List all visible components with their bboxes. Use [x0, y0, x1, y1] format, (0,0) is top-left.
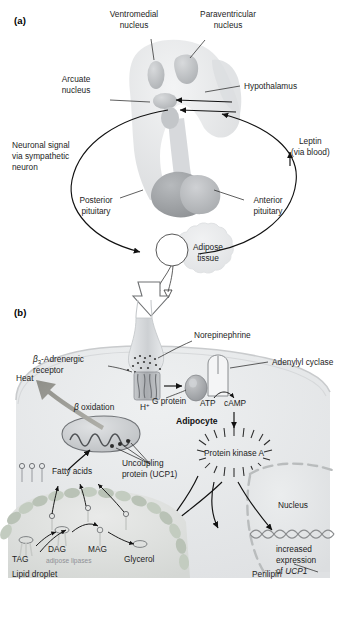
label-adipose-tissue-line2: tissue — [197, 253, 219, 263]
label-increased-expression-line2: expression — [276, 555, 317, 565]
label-tag: TAG — [12, 554, 28, 564]
beta-oxidation-word: oxidation — [81, 402, 115, 412]
label-neuronal-signal-line2: via sympathetic — [12, 151, 69, 161]
label-fatty-acids: Fatty acids — [52, 466, 92, 476]
panel-connector-arrow — [133, 282, 169, 316]
label-hypothalamus: Hypothalamus — [244, 81, 297, 91]
adipocyte-circle-callout — [156, 234, 188, 266]
label-beta3-adrenergic-receptor-line1: β3-Adrenergic — [32, 354, 84, 365]
ucp1-gene-name: UCP1 — [285, 566, 307, 576]
label-glycerol: Glycerol — [124, 554, 155, 564]
figure-root: (a) — [0, 0, 358, 630]
label-beta-oxidation: β oxidation — [73, 402, 115, 412]
leader-posterior-pituitary — [120, 190, 143, 198]
label-adenylyl-cyclase: Adenylyl cyclase — [272, 357, 334, 367]
label-anterior-pituitary-line2: pituitary — [253, 206, 283, 216]
ucp1-dot-3 — [126, 439, 130, 443]
panel-b-letter: (b) — [14, 307, 26, 318]
label-arcuate-nucleus-line2: nucleus — [62, 85, 91, 95]
adrenergic-word: -Adrenergic — [41, 354, 84, 364]
label-nucleus: Nucleus — [278, 500, 308, 510]
label-anterior-pituitary-line1: Anterior — [253, 195, 282, 205]
panel-a-letter: (a) — [14, 15, 26, 26]
label-g-protein: G protein — [152, 396, 187, 406]
panel-b: (b) — [0, 300, 334, 579]
label-leptin-line1: Leptin — [299, 136, 322, 146]
label-camp: cAMP — [224, 398, 247, 408]
ventromedial-nucleus-shape — [148, 61, 165, 89]
label-arcuate-nucleus-line1: Arcuate — [62, 74, 91, 84]
label-ventromedial-nucleus-line1: Ventromedial — [110, 9, 159, 19]
label-adipose-tissue-line1: Adipose — [193, 242, 223, 252]
label-dag: DAG — [48, 544, 66, 554]
label-increased-expression-line1: increased — [276, 544, 312, 554]
figure-svg: (a) — [0, 0, 358, 630]
label-ventromedial-nucleus-line2: nucleus — [120, 20, 149, 30]
label-adipocyte: Adipocyte — [176, 416, 218, 426]
label-lipid-droplet: Lipid droplet — [12, 569, 58, 579]
brain-illustration — [129, 40, 241, 218]
label-mag: MAG — [88, 544, 107, 554]
label-uncoupling-protein-line1: Uncoupling — [122, 458, 164, 468]
proton-superscript: + — [146, 402, 150, 408]
ucp1-dot-1 — [110, 444, 114, 448]
label-paraventricular-nucleus-line2: nucleus — [214, 20, 243, 30]
ucp1-dot-2 — [118, 442, 122, 446]
label-atp: ATP — [200, 398, 216, 408]
label-beta3-adrenergic-receptor-line2: receptor — [33, 365, 64, 375]
label-neuronal-signal-line1: Neuronal signal — [12, 140, 70, 150]
label-norepinephrine: Norepinephrine — [194, 330, 251, 340]
label-protein-kinase-a: Protein kinase A — [204, 448, 264, 458]
label-leptin-line2: (via blood) — [291, 147, 330, 157]
label-posterior-pituitary-line2: pituitary — [81, 206, 111, 216]
arcuate-nucleus-shape — [153, 93, 177, 109]
panel-a: (a) — [12, 9, 330, 298]
label-paraventricular-nucleus-line1: Paraventricular — [200, 9, 256, 19]
label-uncoupling-protein-line2: protein (UCP1) — [122, 469, 178, 479]
label-adipose-lipases: adipose lipases — [46, 557, 92, 565]
g-protein-highlight — [189, 379, 197, 388]
label-perilipin: Perilipin — [252, 569, 282, 579]
label-neuronal-signal-line3: neuron — [12, 162, 38, 172]
label-posterior-pituitary-line1: Posterior — [79, 195, 112, 205]
anterior-pituitary-shape — [180, 175, 220, 214]
label-heat: Heat — [16, 373, 34, 383]
adipose-tissue-illustration — [152, 223, 233, 298]
